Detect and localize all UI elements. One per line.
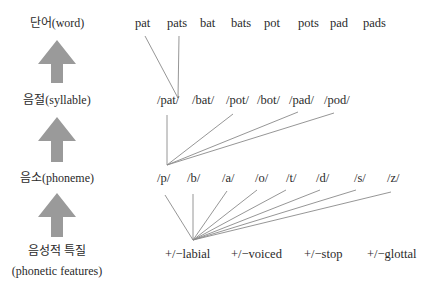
level-label-phoneme: 음소(phoneme) [20, 172, 94, 184]
up-arrow-icon-features-to-phoneme [38, 193, 76, 237]
level-label-syllable: 음절(syllable) [23, 94, 90, 106]
up-arrow-icon-syllable-to-word [38, 40, 76, 83]
phoneme-b: /b/ [187, 172, 200, 185]
word-pads: pads [363, 17, 386, 30]
syllable-to-phoneme-line [167, 114, 233, 165]
syllable-pot: /pot/ [226, 94, 249, 107]
phoneme-to-feature-line [193, 190, 320, 240]
phoneme-p: /p/ [157, 172, 170, 185]
syllable-bat: /bat/ [192, 94, 214, 107]
feature-labial: +/−labial [165, 248, 210, 261]
phoneme-to-feature-line [165, 195, 193, 240]
level-label-features-ko: 음성적 특질 [28, 245, 86, 257]
phoneme-t: /t/ [286, 172, 296, 185]
word-pot: pot [264, 17, 280, 30]
syllable-pod: /pod/ [324, 94, 350, 107]
phoneme-o: /o/ [255, 172, 268, 185]
connection-lines [0, 0, 426, 284]
feature-voiced: +/−voiced [231, 248, 282, 261]
word-pad: pad [330, 17, 348, 30]
syllable-to-phoneme-line [167, 113, 334, 165]
word-bats: bats [231, 17, 251, 30]
word-pat: pat [135, 17, 150, 30]
phoneme-to-feature-line [193, 190, 356, 240]
phoneme-s: /s/ [354, 172, 366, 185]
phonological-hierarchy-diagram: 단어(word) 음절(syllable) 음소(phoneme) 음성적 특질… [0, 0, 426, 284]
syllable-pat: /pat/ [157, 94, 179, 107]
syllable-bot: /bot/ [257, 94, 280, 107]
phoneme-to-feature-line [193, 190, 286, 240]
syllable-to-phoneme-line [167, 112, 298, 165]
word-to-syllable-line [178, 36, 179, 98]
word-pats: pats [167, 17, 187, 30]
up-arrow-icon-phoneme-to-syllable [38, 117, 76, 162]
word-bat: bat [200, 17, 215, 30]
feature-stop: +/−stop [304, 248, 342, 261]
level-label-features-en: (phonetic features) [12, 265, 102, 277]
phoneme-z: /z/ [387, 172, 400, 185]
level-label-word: 단어(word) [30, 17, 85, 29]
phoneme-d: /d/ [316, 172, 329, 185]
phoneme-to-feature-line [193, 192, 391, 240]
word-pots: pots [298, 17, 319, 30]
syllable-pad: /pad/ [289, 94, 314, 107]
phoneme-a: /a/ [222, 172, 235, 185]
word-to-syllable-line [145, 36, 178, 98]
feature-glottal: +/−glottal [367, 248, 417, 261]
